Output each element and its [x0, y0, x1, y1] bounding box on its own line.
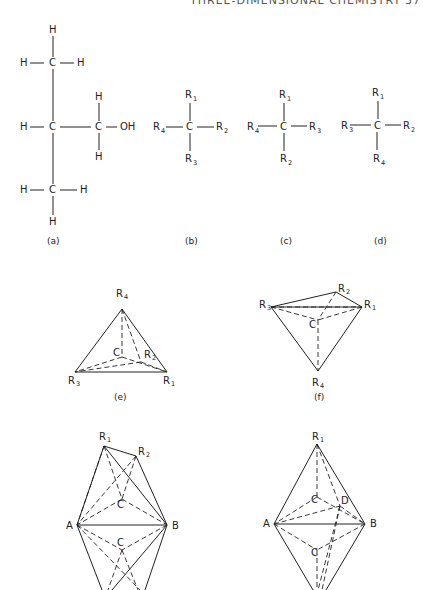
- svg-text:H: H: [49, 24, 57, 35]
- svg-text:1: 1: [287, 95, 291, 103]
- svg-text:A: A: [263, 518, 270, 529]
- svg-text:R: R: [312, 431, 319, 442]
- figure-e-tetrahedron: R4 C R2 R3 R1 (e): [68, 288, 175, 402]
- svg-text:C: C: [311, 494, 318, 505]
- svg-text:R: R: [144, 349, 151, 360]
- svg-text:2: 2: [224, 127, 228, 135]
- caption-c: (c): [280, 236, 292, 246]
- svg-text:2: 2: [152, 354, 156, 362]
- svg-text:H: H: [20, 57, 28, 68]
- svg-text:R: R: [341, 120, 348, 131]
- svg-text:C: C: [186, 121, 193, 132]
- figure-f-tetrahedron: R2 R3 R1 C R4 (f): [259, 283, 376, 402]
- svg-text:OH: OH: [120, 121, 135, 132]
- svg-text:R: R: [309, 121, 316, 132]
- caption-a: (a): [47, 236, 60, 246]
- svg-text:R: R: [312, 377, 319, 388]
- svg-text:3: 3: [76, 380, 80, 388]
- svg-text:R: R: [259, 299, 266, 310]
- svg-text:R: R: [138, 446, 145, 457]
- svg-text:R: R: [373, 153, 380, 164]
- svg-text:2: 2: [288, 159, 292, 167]
- svg-text:B: B: [172, 520, 179, 531]
- svg-text:4: 4: [381, 159, 385, 167]
- svg-text:4: 4: [320, 382, 324, 390]
- svg-text:3: 3: [193, 159, 197, 167]
- svg-text:R: R: [247, 121, 254, 132]
- caption-e: (e): [114, 392, 127, 402]
- svg-text:R: R: [153, 121, 160, 132]
- svg-text:R: R: [279, 89, 286, 100]
- svg-text:R: R: [185, 89, 192, 100]
- svg-text:3: 3: [317, 127, 321, 135]
- svg-text:1: 1: [372, 304, 376, 312]
- caption-d: (d): [374, 236, 387, 246]
- svg-text:R: R: [185, 153, 192, 164]
- svg-text:1: 1: [320, 436, 324, 444]
- svg-text:C: C: [49, 184, 56, 195]
- svg-text:3: 3: [349, 126, 353, 134]
- svg-text:H: H: [77, 57, 85, 68]
- figure-g-bipyramid: R1 R2 A B C C: [66, 431, 179, 590]
- svg-text:H: H: [80, 184, 88, 195]
- svg-text:C: C: [280, 121, 287, 132]
- svg-text:1: 1: [171, 380, 175, 388]
- svg-text:C: C: [117, 537, 124, 548]
- svg-text:R: R: [403, 120, 410, 131]
- svg-text:1: 1: [193, 95, 197, 103]
- caption-f: (f): [314, 392, 324, 402]
- svg-text:3: 3: [267, 304, 271, 312]
- svg-text:R: R: [364, 299, 371, 310]
- svg-text:C: C: [113, 347, 120, 358]
- svg-text:H: H: [20, 121, 28, 132]
- svg-text:C: C: [311, 547, 318, 558]
- figure-a-structural-formula: H H C H H C H C OH H H C H H (a): [20, 24, 135, 246]
- svg-text:R: R: [280, 153, 287, 164]
- svg-text:C: C: [95, 121, 102, 132]
- svg-text:C: C: [49, 57, 56, 68]
- svg-text:H: H: [95, 151, 103, 162]
- svg-text:D: D: [341, 495, 349, 506]
- svg-text:C: C: [117, 499, 124, 510]
- svg-text:1: 1: [380, 93, 384, 101]
- svg-text:B: B: [370, 518, 377, 529]
- figure-c-fischer-projection: R1 R4 C R3 R2 (c): [247, 89, 321, 246]
- svg-text:2: 2: [411, 126, 415, 134]
- svg-text:R: R: [372, 87, 379, 98]
- svg-text:C: C: [49, 121, 56, 132]
- svg-text:R: R: [216, 121, 223, 132]
- svg-text:2: 2: [146, 451, 150, 459]
- svg-text:R: R: [99, 431, 106, 442]
- svg-text:4: 4: [124, 293, 128, 301]
- svg-text:4: 4: [161, 127, 165, 135]
- stereochemistry-figures: H H C H H C H C OH H H C H H (a) R1 R4 C…: [0, 0, 423, 590]
- svg-text:H: H: [95, 91, 103, 102]
- svg-text:R: R: [68, 375, 75, 386]
- svg-text:2: 2: [346, 288, 350, 296]
- svg-text:4: 4: [255, 127, 259, 135]
- svg-text:C: C: [374, 120, 381, 131]
- svg-text:R: R: [163, 375, 170, 386]
- svg-text:C: C: [309, 319, 316, 330]
- caption-b: (b): [185, 236, 198, 246]
- svg-text:R: R: [338, 283, 345, 294]
- figure-d-fischer-projection: R1 R3 C R2 R4 (d): [341, 87, 415, 246]
- figure-b-fischer-projection: R1 R4 C R2 R3 (b): [153, 89, 228, 246]
- figure-h-bipyramid: R1 A B C D C: [263, 431, 377, 590]
- svg-text:A: A: [66, 520, 73, 531]
- svg-text:H: H: [20, 184, 28, 195]
- svg-text:R: R: [116, 288, 123, 299]
- svg-text:1: 1: [107, 436, 111, 444]
- svg-text:H: H: [49, 216, 57, 227]
